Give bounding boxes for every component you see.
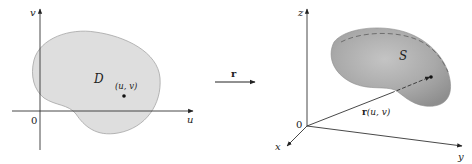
y-axis-label: y <box>457 151 464 162</box>
v-axis-label: v <box>30 7 36 18</box>
origin-label: 0 <box>31 115 37 126</box>
parameter-domain-panel: v u 0 D (u, v) <box>12 7 193 150</box>
surface-label: S <box>399 49 407 63</box>
surface-s <box>331 28 450 106</box>
point-label: (u, v) <box>115 81 137 91</box>
u-axis-label: u <box>187 114 193 125</box>
y-axis <box>307 126 462 146</box>
origin-label: 0 <box>296 119 302 130</box>
mapping-arrow: r <box>215 68 255 82</box>
mapping-label: r <box>231 68 237 79</box>
x-axis-label: x <box>275 141 281 152</box>
point-uv <box>122 94 126 98</box>
region-label: D <box>93 72 104 86</box>
surface-point <box>429 75 433 79</box>
surface-panel: z x y 0 S r(u, v) <box>275 7 464 162</box>
vector-label: r(u, v) <box>362 107 391 117</box>
z-axis-label: z <box>297 7 304 18</box>
vector-label-args: (u, v) <box>367 107 391 117</box>
